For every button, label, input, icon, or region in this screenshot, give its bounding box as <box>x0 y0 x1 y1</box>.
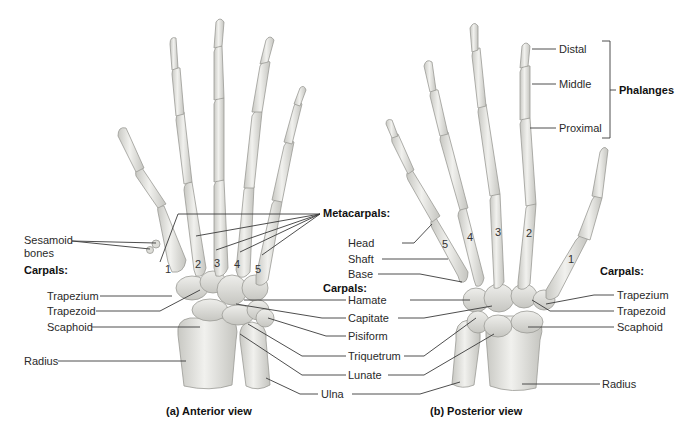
metacarpal-number-1-posterior: 1 <box>568 253 574 265</box>
label-ulna: Ulna <box>321 388 344 401</box>
metacarpal-number-1-anterior: 1 <box>165 263 171 275</box>
label-sesamoid-line1: Sesamoid <box>24 234 73 247</box>
label-trapezoid-posterior: Trapezoid <box>617 305 666 318</box>
label-shaft: Shaft <box>348 253 374 266</box>
label-pisiform: Pisiform <box>348 330 388 343</box>
label-scaphoid-posterior: Scaphoid <box>617 321 663 334</box>
heading-metacarpals: Metacarpals: <box>323 207 390 220</box>
label-base: Base <box>348 268 373 281</box>
heading-phalanges: Phalanges <box>619 84 674 97</box>
label-sesamoid-bones: Sesamoid bones <box>24 234 73 260</box>
label-lunate: Lunate <box>348 369 382 382</box>
label-hamate: Hamate <box>348 294 387 307</box>
metacarpal-number-4-posterior: 4 <box>467 231 473 243</box>
label-trapezium-anterior: Trapezium <box>47 290 99 303</box>
hand-bones-figure: Sesamoid bones Carpals: Trapezium Trapez… <box>0 0 692 436</box>
label-capitate: Capitate <box>348 312 389 325</box>
metacarpal-number-3-anterior: 3 <box>214 257 220 269</box>
label-trapezoid-anterior: Trapezoid <box>47 305 96 318</box>
metacarpal-number-5-posterior: 5 <box>442 238 448 250</box>
metacarpal-number-5-anterior: 5 <box>255 263 261 275</box>
caption-posterior-view: (b) Posterior view <box>430 405 522 417</box>
metacarpal-number-2-posterior: 2 <box>526 227 532 239</box>
caption-anterior-view: (a) Anterior view <box>166 405 252 417</box>
label-scaphoid-anterior: Scaphoid <box>47 321 93 334</box>
metacarpal-number-3-posterior: 3 <box>495 226 501 238</box>
metacarpal-number-4-anterior: 4 <box>234 258 240 270</box>
label-sesamoid-line2: bones <box>24 247 73 260</box>
label-trapezium-posterior: Trapezium <box>617 289 669 302</box>
label-distal-phalanx: Distal <box>559 43 587 56</box>
metacarpal-number-2-anterior: 2 <box>195 258 201 270</box>
label-radius-posterior: Radius <box>602 378 636 391</box>
heading-carpals-posterior: Carpals: <box>600 265 644 278</box>
heading-carpals-anterior: Carpals: <box>24 264 68 277</box>
label-proximal-phalanx: Proximal <box>559 122 602 135</box>
label-radius-anterior: Radius <box>24 355 58 368</box>
label-triquetrum: Triquetrum <box>348 350 401 363</box>
anterior-hand <box>118 19 306 389</box>
label-head: Head <box>348 237 374 250</box>
label-middle-phalanx: Middle <box>559 78 591 91</box>
